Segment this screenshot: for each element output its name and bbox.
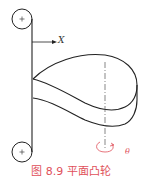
rotation-label: θ	[125, 147, 130, 156]
plate-cam-diagram	[0, 0, 142, 176]
x-arrow	[32, 40, 57, 44]
figure-caption: 图 8.9 平面凸轮	[0, 166, 142, 176]
cam-profile	[33, 54, 137, 126]
top-pulley	[12, 9, 32, 29]
x-axis-label: X	[58, 35, 64, 45]
bottom-pulley	[12, 142, 32, 162]
